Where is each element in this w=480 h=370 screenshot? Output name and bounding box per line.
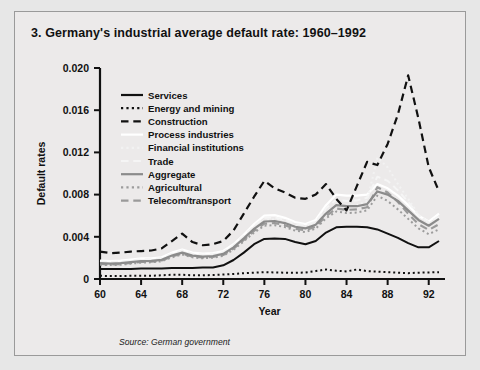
source-note: Source: German government bbox=[119, 337, 230, 347]
x-axis-title: Year bbox=[258, 305, 280, 317]
y-tick-label: 0.008 bbox=[63, 188, 89, 200]
legend-label: Energy and mining bbox=[148, 103, 234, 114]
chart-plot-area: 00.0040.0080.0120.0160.02060646872768084… bbox=[15, 12, 467, 357]
legend-label: Process industries bbox=[148, 129, 234, 140]
legend-label: Aggregate bbox=[148, 169, 195, 180]
x-tick-label: 80 bbox=[300, 288, 312, 300]
series-line bbox=[100, 270, 439, 277]
legend-label: Telecom/transport bbox=[148, 195, 232, 206]
legend-label: Services bbox=[148, 90, 187, 101]
x-tick-label: 60 bbox=[94, 288, 106, 300]
y-axis-title: Default rates bbox=[35, 142, 47, 206]
default-rate-line-chart: 00.0040.0080.0120.0160.02060646872768084… bbox=[15, 12, 467, 357]
x-tick-label: 88 bbox=[382, 288, 394, 300]
x-tick-label: 76 bbox=[259, 288, 271, 300]
y-tick-label: 0.004 bbox=[63, 231, 89, 243]
y-tick-label: 0.016 bbox=[63, 104, 89, 116]
legend-label: Construction bbox=[148, 116, 208, 127]
x-tick-label: 68 bbox=[176, 288, 188, 300]
legend-group: ServicesEnergy and miningConstructionPro… bbox=[121, 90, 244, 207]
legend-label: Trade bbox=[148, 156, 174, 167]
figure-panel: 3. Germany's industrial average default … bbox=[14, 11, 466, 356]
legend-label: Financial institutions bbox=[148, 142, 244, 153]
y-tick-label: 0.012 bbox=[63, 146, 89, 158]
legend-label: Agricultural bbox=[148, 182, 202, 193]
source-label: Source: bbox=[119, 337, 149, 347]
y-tick-label: 0.020 bbox=[63, 62, 89, 74]
x-tick-label: 64 bbox=[135, 288, 147, 300]
x-tick-label: 72 bbox=[217, 288, 229, 300]
x-tick-label: 84 bbox=[341, 288, 353, 300]
source-value: German government bbox=[151, 337, 230, 347]
y-tick-label: 0 bbox=[83, 273, 89, 285]
x-tick-label: 92 bbox=[423, 288, 435, 300]
